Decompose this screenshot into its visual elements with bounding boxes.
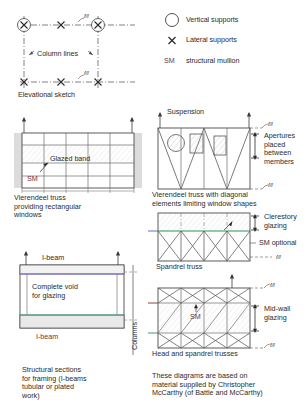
sm-label-vierendeel: SM (27, 175, 38, 184)
midwall-glazing-label: Mid-wall glazing (264, 305, 306, 322)
elevational-sketch-caption: Elevational sketch (18, 91, 75, 100)
fl-label-bottom: f/l (84, 69, 89, 78)
footnote-left: Structural sections for framing (I-beams… (22, 366, 142, 401)
head-spandrel-graphic (148, 274, 270, 348)
legend-item-lateral-supports: Lateral supports (186, 36, 237, 45)
spandrel-truss-caption: Spandrel truss (156, 263, 256, 272)
column-lines-label: Column lines (37, 50, 78, 59)
fl-label-head-bottom: f/l (270, 341, 275, 350)
legend-symbols (166, 14, 179, 45)
clerestory-glazing-label: Clerestory glazing (264, 213, 306, 230)
fl-label-head-top: f/l (270, 281, 275, 290)
columns-label: Columns (131, 322, 140, 350)
ibeam-bottom-label: I-beam (36, 333, 58, 342)
diagram-sheet: f/l Column lines f/l Elevational sketch … (0, 0, 306, 417)
glazed-band-label: Glazed band (50, 155, 90, 164)
fl-label-top: f/l (84, 12, 89, 21)
vierendeel-rect-caption: Vierendeel truss providing rectangular w… (14, 194, 144, 220)
suspension-label: Suspension (167, 108, 204, 117)
head-spandrel-caption: Head and spandrel trusses (152, 350, 302, 359)
circle-icon (166, 14, 179, 27)
legend-item-vertical-supports: Vertical supports (186, 16, 238, 25)
vierendeel-diagonal-graphic (158, 112, 268, 189)
sm-label-head-spandrel: SM (190, 313, 201, 322)
cross-icon (169, 37, 176, 44)
apertures-label: Apertures placed between members (264, 132, 306, 167)
legend-item-structural-mullion: structural mullion (186, 57, 239, 66)
legend-sm-symbol: SM (164, 57, 175, 66)
vierendeel-diagonal-caption: Vierendeel truss with diagonal elements … (152, 191, 304, 208)
complete-void-label: Complete void for glazing (32, 283, 124, 300)
spandrel-truss-graphic (148, 213, 272, 261)
fl-label-diag-top: f/l (268, 120, 273, 129)
footnote-right: These diagrams are based on material sup… (152, 372, 304, 398)
ibeam-top-label: I-beam (42, 254, 64, 263)
fl-label-spandrel: f/l (276, 253, 281, 262)
sm-optional-label: SM optional (259, 239, 296, 248)
fl-label-diag-bottom: f/l (268, 181, 273, 190)
